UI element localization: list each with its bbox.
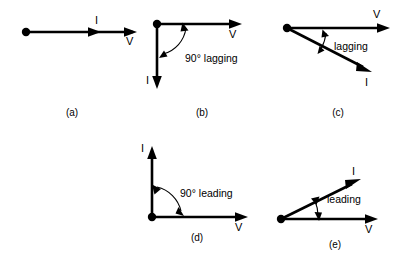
label-current-b: I (146, 74, 149, 86)
label-current-d: I (141, 142, 144, 154)
label-voltage-b: V (229, 28, 237, 40)
label-voltage-e: V (365, 223, 373, 235)
label-ninety-leading-d: 90° leading (180, 187, 233, 199)
caption-d: (d) (191, 232, 203, 243)
arrow-head-c-voltage (377, 23, 390, 33)
label-lagging-c: lagging (334, 40, 368, 52)
arrow-head-c-current (356, 62, 372, 72)
label-ninety-lagging-b: 90° lagging (185, 52, 238, 64)
phasor-diagram-figure: I V (a) V I 90° lagging (b) (0, 0, 406, 261)
label-current-e: I (352, 165, 355, 177)
label-voltage-d: V (235, 221, 243, 233)
arrow-head-e-current (345, 179, 361, 189)
label-leading-e: leading (327, 193, 361, 205)
panel-a: I V (a) (22, 14, 137, 118)
label-voltage-c: V (373, 8, 381, 20)
angle-arc-d (157, 187, 181, 211)
arc-head-b-bottom (159, 51, 168, 59)
panel-c: V I lagging (c) (283, 8, 390, 118)
caption-b: (b) (196, 107, 208, 118)
arc-head-d-left (152, 185, 161, 195)
label-current-c: I (365, 76, 368, 88)
caption-a: (a) (66, 107, 78, 118)
angle-arc-b (163, 28, 186, 54)
arrow-head-a-current (88, 27, 101, 37)
panel-b: V I 90° lagging (b) (146, 19, 242, 118)
arc-head-c-top (322, 30, 330, 38)
caption-c: (c) (332, 107, 344, 118)
arrow-head-b-current (152, 76, 162, 89)
diagram-canvas: I V (a) V I 90° lagging (b) (0, 0, 406, 261)
arrow-head-d-current (147, 146, 157, 159)
label-current-a: I (95, 14, 98, 26)
caption-e: (e) (329, 239, 341, 250)
panel-d: I V 90° leading (d) (141, 142, 248, 243)
label-voltage-a: V (126, 35, 134, 47)
panel-e: V I leading (e) (277, 165, 378, 250)
